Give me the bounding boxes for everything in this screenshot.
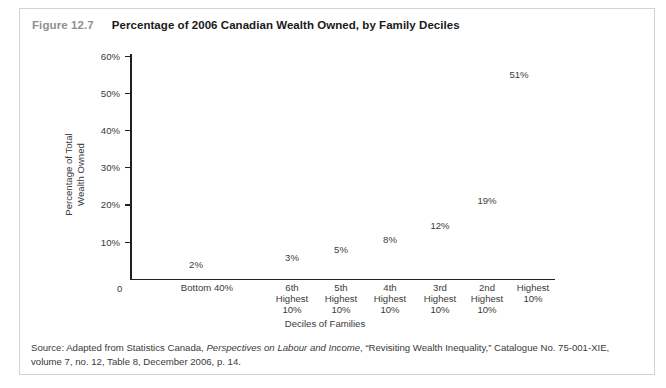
figure-container: Figure 12.7 Percentage of 2006 Canadian … xyxy=(0,0,666,388)
figure-number: Figure 12.7 xyxy=(32,19,94,31)
source-prefix: Source: Adapted from Statistics Canada, xyxy=(31,342,206,353)
source-note: Source: Adapted from Statistics Canada, … xyxy=(31,341,639,368)
figure-title: Percentage of 2006 Canadian Wealth Owned… xyxy=(112,19,460,31)
figure-frame xyxy=(19,8,655,375)
figure-header: Figure 12.7 Percentage of 2006 Canadian … xyxy=(32,19,460,35)
source-publication-title: Perspectives on Labour and Income xyxy=(206,342,360,353)
